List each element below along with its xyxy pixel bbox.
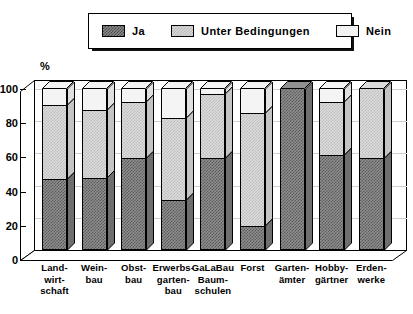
y-axis-tick-label: 20 (0, 220, 18, 232)
bar-column[interactable] (42, 89, 67, 250)
bar-baseline (359, 249, 384, 250)
bar-top-face (42, 81, 75, 88)
bar-top-face (359, 81, 392, 88)
bar-baseline (280, 249, 305, 250)
bar-segment[interactable] (161, 200, 186, 250)
bar-segment[interactable] (240, 89, 265, 113)
bar-top-face (280, 81, 313, 88)
bar-segment[interactable] (121, 158, 146, 250)
bar-top-face (82, 81, 115, 88)
ja-swatch-icon (102, 25, 125, 37)
bar-segment[interactable] (121, 102, 146, 158)
x-axis-labels: Land-wirt-schaftWein-bauObst-bauErwerbs-… (20, 262, 407, 314)
bar-segment[interactable] (240, 113, 265, 226)
bar-segment[interactable] (82, 178, 107, 250)
bar-segment[interactable] (121, 89, 146, 102)
bar-segment[interactable] (200, 94, 225, 158)
bar-segment[interactable] (42, 89, 67, 105)
bar-column[interactable] (359, 89, 384, 250)
legend-label-unter-bedingungen: Unter Bedingungen (201, 25, 310, 37)
bar-segment[interactable] (200, 158, 225, 250)
y-axis-unit-label: % (40, 60, 50, 72)
y-axis-tick-label: 60 (0, 151, 18, 163)
bar-baseline (121, 249, 146, 250)
unter-bedingungen-swatch-icon (171, 25, 194, 37)
bar-segment[interactable] (359, 89, 384, 158)
bar-segment[interactable] (359, 158, 384, 250)
bar-segment[interactable] (82, 89, 107, 110)
bar-segment[interactable] (319, 155, 344, 250)
y-axis-tick-label: 40 (0, 186, 18, 198)
chart-legend: Ja Unter Bedingungen Nein (88, 13, 352, 49)
bar-top-face (161, 81, 194, 88)
bar-top-face (121, 81, 154, 88)
x-axis-label-line: werke (343, 274, 399, 286)
bar-segment[interactable] (319, 89, 344, 102)
bar-side-face (146, 82, 153, 243)
bar-segment[interactable] (42, 179, 67, 250)
bar-segment[interactable] (161, 118, 186, 200)
bar-side-face (384, 82, 391, 243)
bar-baseline (161, 249, 186, 250)
bar-top-face (319, 81, 352, 88)
bar-top-face (200, 81, 233, 88)
legend-item-ja: Ja (102, 25, 145, 37)
bar-segment[interactable] (319, 102, 344, 155)
bar-baseline (319, 249, 344, 250)
nein-swatch-icon (336, 25, 359, 37)
bar-baseline (42, 249, 67, 250)
bar-side-face (107, 82, 114, 243)
bar-segment[interactable] (42, 105, 67, 179)
bar-side-face (186, 82, 193, 243)
bar-series-layer (20, 80, 407, 261)
legend-item-unter-bedingungen: Unter Bedingungen (171, 25, 310, 37)
bar-baseline (82, 249, 107, 250)
x-axis-label: Erden-werke (343, 262, 399, 285)
bar-column[interactable] (319, 89, 344, 250)
bar-side-face (67, 82, 74, 243)
bar-segment[interactable] (82, 110, 107, 178)
y-axis-tick-label: 80 (0, 117, 18, 129)
bar-side-face (344, 82, 351, 243)
x-axis-label-line: Baum- (185, 274, 241, 286)
x-axis-label-line: Erden- (343, 262, 399, 274)
bar-baseline (240, 249, 265, 250)
y-axis-tick-label: 0 (0, 254, 18, 266)
chart-root: Ja Unter Bedingungen Nein % 020406080100… (0, 0, 413, 314)
bar-column[interactable] (161, 89, 186, 250)
bar-segment[interactable] (280, 89, 305, 250)
legend-item-nein: Nein (336, 25, 391, 37)
bar-column[interactable] (240, 89, 265, 250)
bar-side-face (265, 82, 272, 243)
bar-segment[interactable] (161, 89, 186, 118)
x-axis-label-line: schulen (185, 285, 241, 297)
bar-column[interactable] (200, 89, 225, 250)
legend-label-nein: Nein (366, 25, 391, 37)
bar-baseline (200, 249, 225, 250)
bar-side-face (225, 82, 232, 243)
bar-column[interactable] (82, 89, 107, 250)
bar-side-face (305, 82, 312, 243)
legend-label-ja: Ja (132, 25, 145, 37)
y-axis-tick-label: 100 (0, 83, 18, 95)
bar-column[interactable] (121, 89, 146, 250)
bar-segment[interactable] (240, 226, 265, 250)
bar-column[interactable] (280, 89, 305, 250)
x-axis-label-line: schaft (27, 285, 83, 297)
bar-top-face (240, 81, 273, 88)
